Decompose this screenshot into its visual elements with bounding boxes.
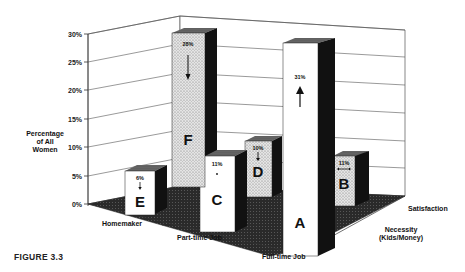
y-tick-20: 20% — [68, 87, 83, 94]
bar-E-letter: E — [135, 193, 145, 210]
bar-E: 6% E — [125, 165, 167, 215]
series-label-necessity-line-1: Necessity — [373, 226, 429, 234]
bar-C: 11% C — [200, 150, 247, 232]
category-label-homemaker: Homemaker — [102, 220, 142, 227]
y-tick-5: 5% — [72, 173, 83, 180]
y-axis-label: Percentage of All Women — [16, 130, 74, 154]
y-tick-25: 25% — [68, 59, 83, 66]
series-label-satisfaction: Satisfaction — [408, 205, 448, 213]
y-tick-30: 30% — [68, 31, 83, 38]
series-label-necessity-line-2: (Kids/Money) — [373, 234, 429, 242]
bar-F-pct: 28% — [182, 41, 193, 47]
y-axis-label-line-1: Percentage — [16, 130, 74, 138]
bar-E-pct: 6% — [136, 175, 144, 181]
bar-C-letter: C — [212, 191, 223, 208]
bar-C-pct: 11% — [212, 161, 223, 167]
bar-A-letter: A — [295, 214, 306, 231]
bar-B-pct: 11% — [339, 160, 350, 166]
y-tick-15: 15% — [68, 116, 83, 123]
category-label-full-time-job: Full-time Job — [262, 253, 306, 260]
bar-A-pct: 31% — [294, 74, 305, 80]
figure-caption: FIGURE 3.3 — [14, 252, 63, 262]
bar-F-letter: F — [183, 131, 192, 148]
bar-A: 31% A — [283, 38, 335, 256]
series-label-necessity: Necessity (Kids/Money) — [373, 226, 429, 242]
y-axis-label-line-3: Women — [16, 146, 74, 154]
y-axis-label-line-2: of All — [16, 138, 74, 146]
bar-D-pct: 10% — [252, 145, 263, 151]
category-label-part-time-job: Part-time Job — [177, 234, 222, 241]
bar-D: 10% D — [245, 136, 282, 197]
y-axis: 0% 5% 10% 15% 20% 25% 30% — [68, 31, 88, 208]
bar-B-letter: B — [339, 175, 350, 192]
dot-icon — [216, 173, 218, 175]
bar-D-letter: D — [253, 163, 264, 180]
y-tick-0: 0% — [72, 201, 83, 208]
bar-B: 11% B — [333, 151, 369, 206]
